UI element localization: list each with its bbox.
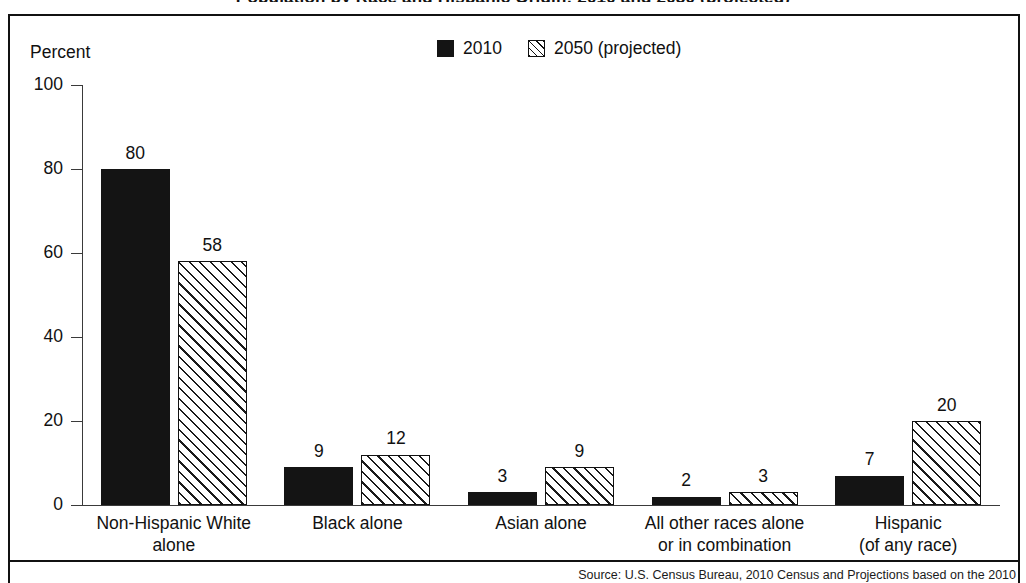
bar-group: 23 (633, 85, 817, 505)
bar-rect[interactable] (545, 467, 614, 505)
bar-value-label: 80 (101, 145, 170, 163)
bar-2010[interactable]: 9 (284, 85, 353, 505)
y-tick-0: 0 (71, 505, 82, 506)
y-tick-60: 60 (71, 253, 82, 254)
bar-value-label: 20 (912, 397, 981, 415)
bar-2050[interactable]: 12 (361, 85, 430, 505)
y-tick-40: 40 (71, 337, 82, 338)
bar-rect[interactable] (178, 261, 247, 505)
bar-group: 720 (816, 85, 1000, 505)
bar-value-label: 3 (468, 468, 537, 486)
category-label: All other races aloneor in combination (633, 512, 817, 557)
source-footnote-clipped: Source: U.S. Census Bureau, 2010 Census … (8, 568, 1020, 583)
x-axis-line (82, 505, 1000, 506)
bar-group: 8058 (82, 85, 266, 505)
bar-rect[interactable] (361, 455, 430, 505)
bar-value-label: 3 (729, 468, 798, 486)
bar-2050[interactable]: 58 (178, 85, 247, 505)
bar-rect[interactable] (101, 169, 170, 505)
y-tick-label: 20 (44, 410, 63, 431)
bar-2010[interactable]: 80 (101, 85, 170, 505)
y-tick-80: 80 (71, 169, 82, 170)
y-tick-label: 0 (53, 494, 63, 515)
y-tick-100: 100 (71, 85, 82, 86)
legend-label-2050: 2050 (projected) (554, 40, 681, 58)
bar-2010[interactable]: 7 (835, 85, 904, 505)
y-tick-label: 60 (44, 242, 63, 263)
y-tick-label: 80 (44, 158, 63, 179)
bar-2050[interactable]: 3 (729, 85, 798, 505)
plot-area: 100806040200 80589123923720 (82, 85, 1000, 505)
bar-value-label: 2 (652, 472, 721, 490)
category-label-line: All other races alone (633, 512, 817, 534)
bar-value-label: 12 (361, 430, 430, 448)
category-label-line: (of any race) (816, 534, 1000, 556)
bar-rect[interactable] (835, 476, 904, 505)
bar-rect[interactable] (468, 492, 537, 505)
bar-value-label: 7 (835, 451, 904, 469)
chart-page: Population by Race and Hispanic Origin: … (0, 0, 1026, 583)
bar-group: 39 (449, 85, 633, 505)
diagonal-hatch-swatch-icon (528, 40, 545, 57)
solid-black-swatch-icon (437, 40, 454, 57)
y-tick-label: 100 (34, 74, 63, 95)
frame-bottom-rule (8, 560, 1020, 562)
bar-rect[interactable] (284, 467, 353, 505)
category-label-line: or in combination (633, 534, 817, 556)
category-label: Black alone (266, 512, 450, 534)
category-label-line: Hispanic (816, 512, 1000, 534)
legend-entry-2010: 2010 (437, 40, 502, 58)
chart-legend: 2010 2050 (projected) (437, 40, 681, 58)
y-axis-title: Percent (30, 42, 90, 63)
legend-entry-2050: 2050 (projected) (528, 40, 681, 58)
bar-group: 912 (266, 85, 450, 505)
category-label: Asian alone (449, 512, 633, 534)
category-label: Hispanic(of any race) (816, 512, 1000, 557)
bar-2050[interactable]: 9 (545, 85, 614, 505)
x-axis-category-labels: Non-Hispanic WhitealoneBlack aloneAsian … (82, 512, 1000, 560)
y-tick-20: 20 (71, 421, 82, 422)
bar-rect[interactable] (912, 421, 981, 505)
bar-value-label: 58 (178, 237, 247, 255)
y-tick-label: 40 (44, 326, 63, 347)
category-label: Non-Hispanic Whitealone (82, 512, 266, 557)
category-label-line: alone (82, 534, 266, 556)
bar-value-label: 9 (545, 443, 614, 461)
bar-2010[interactable]: 3 (468, 85, 537, 505)
chart-title-clipped: Population by Race and Hispanic Origin: … (0, 0, 1026, 2)
bar-value-label: 9 (284, 443, 353, 461)
bar-2050[interactable]: 20 (912, 85, 981, 505)
bar-2010[interactable]: 2 (652, 85, 721, 505)
category-label-line: Black alone (266, 512, 450, 534)
category-label-line: Non-Hispanic White (82, 512, 266, 534)
legend-label-2010: 2010 (463, 40, 502, 58)
category-label-line: Asian alone (449, 512, 633, 534)
bar-rect[interactable] (652, 497, 721, 505)
bar-rect[interactable] (729, 492, 798, 505)
